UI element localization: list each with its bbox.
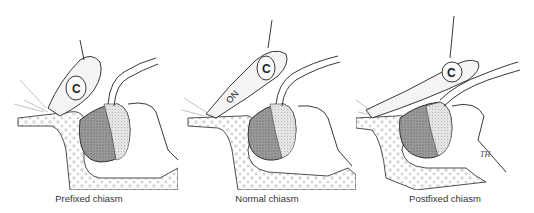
panel-normal-chiasm: C ON Normal chiasm xyxy=(178,0,356,213)
panel-prefixed-chiasm: C Prefixed chiasm xyxy=(0,0,178,213)
label-carotid: C xyxy=(262,62,271,76)
caption-prefixed: Prefixed chiasm xyxy=(0,193,178,204)
panel-postfixed-chiasm: C TH Postfixed chiasm xyxy=(356,0,534,213)
postfixed-chiasm-illustration: C xyxy=(356,0,534,190)
caption-postfixed: Postfixed chiasm xyxy=(356,193,534,204)
label-carotid: C xyxy=(447,66,456,80)
label-carotid: C xyxy=(72,82,81,96)
prefixed-chiasm-illustration: C xyxy=(0,0,178,190)
normal-chiasm-illustration: C ON xyxy=(178,0,356,190)
caption-normal: Normal chiasm xyxy=(178,193,356,204)
artist-signature: TH xyxy=(480,150,490,159)
